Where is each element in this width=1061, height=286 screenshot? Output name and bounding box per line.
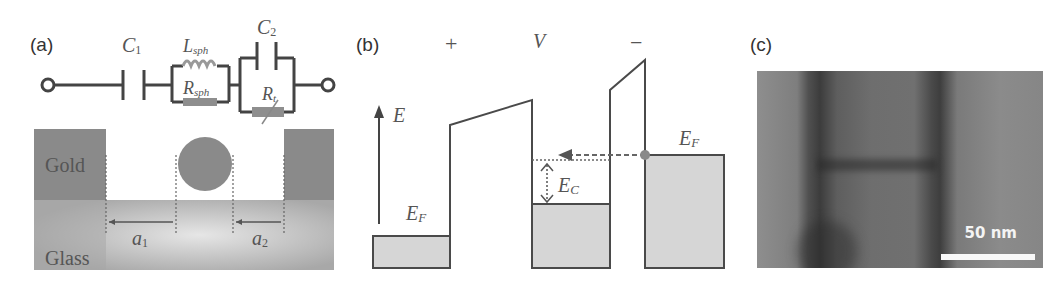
scale-bar-label: 50 nm bbox=[965, 224, 1017, 242]
scale-bar bbox=[941, 254, 1035, 260]
nanosphere bbox=[178, 137, 232, 191]
panel-c-label: (c) bbox=[750, 34, 772, 55]
panel-c: (c) 50 nm bbox=[740, 0, 1061, 286]
resistor-icon bbox=[183, 98, 217, 106]
fermi-left-label: EF bbox=[405, 202, 427, 225]
voltage-label: V bbox=[533, 30, 548, 52]
left-electrode-fermi-sea bbox=[373, 236, 450, 268]
minus-sign: − bbox=[630, 30, 642, 55]
gold-electrode-right bbox=[284, 129, 334, 200]
right-electrode-fermi-sea bbox=[645, 155, 724, 268]
panel-a-label: (a) bbox=[30, 34, 53, 55]
gold-label: Gold bbox=[45, 154, 85, 176]
sem-image: 50 nm bbox=[757, 71, 1043, 268]
panel-c-label-wrap: (c) bbox=[740, 0, 800, 60]
panel-b-label: (b) bbox=[356, 34, 379, 55]
fermi-right-label: EF bbox=[678, 127, 700, 150]
charging-energy-label: EC bbox=[557, 174, 579, 197]
energy-axis-label: E bbox=[392, 104, 405, 126]
energy-band-diagram: (b) + V − E EF EC EF bbox=[350, 0, 740, 286]
label-rt: Rt bbox=[261, 84, 277, 104]
island-fermi-sea bbox=[532, 204, 610, 268]
label-c2: C2 bbox=[257, 16, 276, 39]
glass-label: Glass bbox=[45, 247, 90, 269]
panel-b: (b) + V − E EF EC EF bbox=[350, 0, 740, 286]
terminal-left-icon bbox=[42, 79, 54, 91]
label-lsph: Lsph bbox=[182, 36, 209, 56]
panel-a-drawing: (a) bbox=[0, 0, 345, 286]
arrow-left-icon bbox=[558, 149, 572, 161]
label-c1: C1 bbox=[122, 34, 141, 57]
left-barrier bbox=[450, 100, 532, 236]
nanogap-structure: Gold Glass a1 a2 bbox=[34, 129, 334, 270]
plus-sign: + bbox=[445, 31, 457, 56]
label-rsph: Rsph bbox=[182, 78, 210, 98]
arrow-up-icon bbox=[374, 105, 384, 118]
inductor-icon bbox=[183, 61, 215, 66]
right-barrier bbox=[610, 60, 645, 204]
panel-a: (a) bbox=[0, 0, 345, 286]
electron-dot-icon bbox=[640, 150, 650, 160]
terminal-right-icon bbox=[322, 79, 334, 91]
